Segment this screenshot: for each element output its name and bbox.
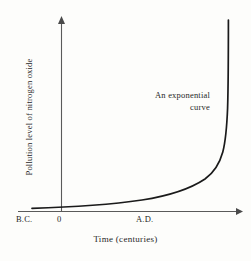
- curve-annotation: An exponential curve: [132, 90, 210, 113]
- x-tick-label-ad: A.D.: [136, 214, 153, 224]
- exponential-curve-figure: B.C. 0 A.D. Time (centuries) Pollution l…: [0, 0, 251, 261]
- curve-annotation-line1: An exponential: [132, 90, 210, 102]
- curve-annotation-line2: curve: [132, 102, 210, 114]
- x-axis-arrowhead: [236, 208, 243, 215]
- y-axis-title: Pollution level of nitrogen oxide: [24, 42, 34, 192]
- y-axis-arrowhead: [58, 16, 65, 24]
- x-axis-title: Time (centuries): [0, 234, 251, 244]
- x-tick-label-zero: 0: [57, 214, 61, 224]
- chart-canvas: [0, 0, 251, 261]
- x-tick-label-bc: B.C.: [16, 214, 32, 224]
